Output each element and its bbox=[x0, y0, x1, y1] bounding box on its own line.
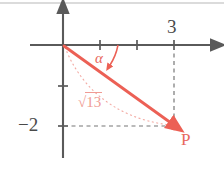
segment-length-label: √13 bbox=[78, 95, 102, 110]
radicand-value: 13 bbox=[85, 92, 102, 110]
point-p-marker bbox=[170, 122, 178, 130]
angle-label-alpha: α bbox=[95, 51, 103, 66]
x-tick-label-3: 3 bbox=[167, 17, 177, 36]
point-label-p: P bbox=[181, 131, 190, 148]
sqrt-expression: √13 bbox=[78, 95, 102, 110]
coordinate-plane-figure: 3 −2 α P √13 bbox=[0, 0, 224, 169]
angle-arc bbox=[110, 45, 118, 65]
y-tick-label-minus-2: −2 bbox=[18, 115, 38, 134]
vector-op-line bbox=[64, 46, 171, 123]
